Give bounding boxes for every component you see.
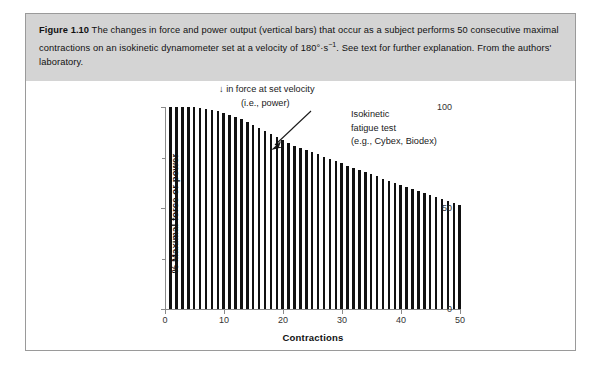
- bar: [205, 109, 208, 309]
- bar: [217, 111, 220, 309]
- bar: [246, 122, 249, 309]
- bar: [423, 193, 426, 309]
- bar: [199, 108, 202, 309]
- bar: [323, 157, 326, 310]
- x-axis-tick-label: 40: [396, 315, 406, 325]
- bar: [382, 179, 385, 309]
- x-axis-tick: [165, 310, 166, 314]
- bar: [346, 166, 349, 309]
- figure-container: Figure 1.10 The changes in force and pow…: [25, 13, 576, 351]
- bar: [399, 185, 402, 309]
- bar: [181, 107, 184, 309]
- bar: [358, 170, 361, 309]
- bar: [335, 161, 338, 309]
- bar: [364, 172, 367, 309]
- bar: [240, 119, 243, 309]
- bar: [405, 187, 408, 309]
- bar: [417, 191, 420, 309]
- bar: [388, 181, 391, 309]
- bar: [281, 140, 284, 309]
- bar: [264, 131, 267, 309]
- bar: [458, 205, 461, 309]
- bar: [329, 159, 332, 309]
- bar: [370, 174, 373, 309]
- x-axis-tick: [283, 310, 284, 314]
- annotation-force-decline-line1: ↓ in force at set velocity: [219, 84, 315, 94]
- y-axis-tick: [161, 309, 165, 310]
- bar: [429, 195, 432, 309]
- bar: [222, 113, 225, 309]
- bar: [340, 163, 343, 309]
- bar: [276, 137, 279, 309]
- bar: [441, 199, 444, 309]
- figure-number-label: Figure 1.10: [39, 25, 89, 35]
- bar: [352, 168, 355, 309]
- y-axis-minor-tick: [162, 259, 165, 260]
- bar-series: [166, 107, 461, 309]
- bar: [287, 143, 290, 309]
- bar: [211, 110, 214, 309]
- bar: [293, 146, 296, 309]
- bar: [376, 176, 379, 309]
- bar: [311, 152, 314, 309]
- chart-plot-area: ↓ in force at set velocity (i.e., power)…: [26, 81, 575, 350]
- figure-caption-band: Figure 1.10 The changes in force and pow…: [26, 14, 575, 81]
- x-axis-tick: [224, 310, 225, 314]
- bar: [411, 189, 414, 309]
- chart-axes: 01020304050 050100 Contractions % Maxima…: [165, 107, 461, 310]
- bar: [270, 134, 273, 309]
- bar: [193, 107, 196, 309]
- bar: [394, 183, 397, 309]
- x-axis-tick-label: 30: [337, 315, 347, 325]
- x-axis-tick-label: 50: [455, 315, 465, 325]
- figure-caption-text: Figure 1.10 The changes in force and pow…: [39, 23, 562, 70]
- x-axis-title: Contractions: [165, 332, 461, 343]
- bar: [228, 115, 231, 309]
- x-axis-tick: [401, 310, 402, 314]
- x-axis-tick: [460, 310, 461, 314]
- x-axis-line: [165, 309, 461, 310]
- bar: [299, 148, 302, 309]
- x-axis-tick-label: 20: [278, 315, 288, 325]
- bar: [187, 107, 190, 309]
- y-axis-tick-label: 50: [442, 203, 452, 213]
- y-axis-tick: [161, 107, 165, 108]
- y-axis-tick: [161, 208, 165, 209]
- annotation-force-decline: ↓ in force at set velocity (i.e., power): [219, 83, 315, 110]
- bar: [453, 203, 456, 309]
- y-axis-tick-label: 0: [447, 304, 452, 314]
- x-axis-tick-label: 10: [219, 315, 229, 325]
- bar: [258, 128, 261, 309]
- x-axis-tick: [342, 310, 343, 314]
- bar: [305, 150, 308, 309]
- y-axis-title: % Maximal force or power: [169, 119, 180, 309]
- bar: [252, 125, 255, 309]
- bar: [447, 201, 450, 309]
- x-axis-tick-label: 0: [162, 315, 167, 325]
- bar: [317, 154, 320, 309]
- y-axis-minor-tick: [162, 158, 165, 159]
- bar: [435, 197, 438, 309]
- y-axis-tick-label: 100: [437, 102, 452, 112]
- bar: [234, 117, 237, 309]
